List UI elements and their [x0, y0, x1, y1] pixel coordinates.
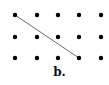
grid-dot [56, 35, 60, 39]
grid-dot [99, 56, 103, 60]
grid-dot [99, 35, 103, 39]
grid-dot [77, 35, 81, 39]
grid-dot [13, 35, 17, 39]
grid-dot [77, 13, 81, 17]
grid-dot [13, 13, 17, 17]
line-segment [15, 15, 79, 58]
grid-dot [35, 35, 39, 39]
grid-dot [35, 56, 39, 60]
grid-dot [13, 56, 17, 60]
diagonal-line [15, 15, 79, 58]
grid-dot [56, 56, 60, 60]
grid-dot [35, 13, 39, 17]
grid-dot [99, 13, 103, 17]
grid-dot [77, 56, 81, 60]
grid-dot [56, 13, 60, 17]
caption-label: b. [0, 65, 109, 79]
dot-grid [13, 13, 103, 60]
